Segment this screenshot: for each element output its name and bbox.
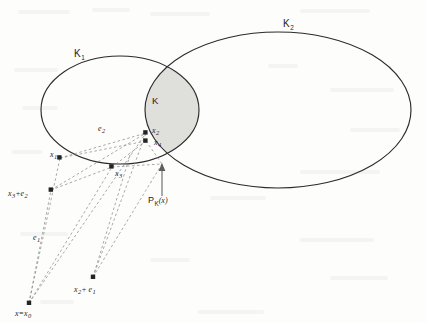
label-point-x-equals-x0: x=x0 xyxy=(14,309,32,319)
line-x0-to-x3 xyxy=(29,167,112,303)
diagram-svg: K1 K2 K x1 x3 x2 x4 e2 e1 x3+e2 x2+ e1 xyxy=(0,0,427,323)
line-x0-to-x1 xyxy=(29,158,60,303)
label-set-k2: K2 xyxy=(283,18,294,31)
line-x1-to-x2 xyxy=(60,133,146,158)
label-set-k1: K1 xyxy=(74,48,85,61)
line-x3-to-x4 xyxy=(112,141,146,167)
point-marker-x2 xyxy=(143,130,147,134)
point-marker-x0 xyxy=(27,301,31,305)
label-set-intersection-k: K xyxy=(152,95,159,106)
line-x2plusE1-to-x2 xyxy=(93,133,146,277)
point-marker-x3-plus-e2 xyxy=(49,187,53,191)
label-point-x3-plus-e2: x3+e2 xyxy=(7,189,29,199)
line-x3plusE2-to-x2 xyxy=(51,133,146,190)
line-x0-to-x3plusE2 xyxy=(29,190,51,303)
label-point-x3: x3 xyxy=(114,169,122,179)
line-x2plusE1-to-x4 xyxy=(93,152,131,277)
line-x0-to-x2 xyxy=(29,133,146,303)
point-marker-x1 xyxy=(57,155,61,159)
point-marker-x2-plus-e1 xyxy=(91,275,95,279)
label-vector-e2: e2 xyxy=(98,124,106,134)
label-projection-pk-x: PK(x) xyxy=(148,195,168,207)
label-point-x2-plus-e1: x2+ e1 xyxy=(73,285,96,295)
figure-canvas: K1 K2 K x1 x3 x2 x4 e2 e1 x3+e2 x2+ e1 xyxy=(0,0,427,323)
construction-lines xyxy=(29,133,162,303)
point-marker-x4 xyxy=(143,138,147,142)
projection-arrow xyxy=(159,163,166,196)
line-x3plusE2-to-x3 xyxy=(51,167,112,190)
point-marker-x3 xyxy=(109,164,113,168)
label-vector-e1: e1 xyxy=(33,233,40,243)
line-x1-to-x4 xyxy=(60,141,146,158)
line-x2plusE1-to-pk xyxy=(93,164,162,277)
intersection-region-fill xyxy=(145,32,411,188)
label-point-x1: x1 xyxy=(49,150,57,160)
